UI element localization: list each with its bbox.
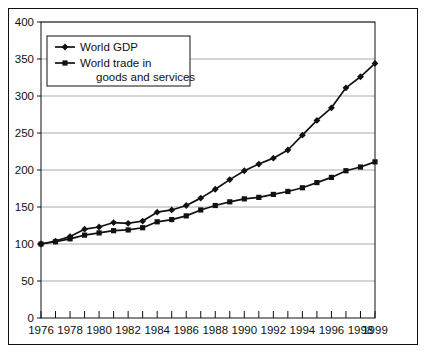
x-tick-label: 1999 — [362, 324, 388, 336]
data-point — [329, 175, 334, 180]
line-chart: 400350300250200150100500 197619781980198… — [0, 0, 426, 353]
data-point — [125, 220, 132, 227]
x-tick-label: 1988 — [202, 324, 228, 336]
data-point — [343, 168, 348, 173]
y-tick-label: 50 — [21, 275, 34, 287]
data-point — [140, 225, 145, 230]
y-tick-label: 100 — [15, 238, 34, 250]
series-line — [41, 63, 375, 244]
legend-label: goods and services — [96, 71, 195, 83]
data-point — [255, 161, 262, 168]
data-point — [183, 202, 190, 209]
data-point — [38, 241, 43, 246]
y-axis-tick-labels: 400350300250200150100500 — [15, 16, 41, 324]
data-point — [314, 180, 319, 185]
x-tick-label: 1976 — [28, 324, 54, 336]
series-world-gdp — [38, 60, 379, 247]
x-tick-label: 1994 — [290, 324, 316, 336]
y-tick-label: 250 — [15, 127, 34, 139]
data-point — [96, 224, 103, 231]
y-tick-label: 0 — [28, 312, 34, 324]
x-tick-label: 1978 — [57, 324, 83, 336]
data-point — [270, 155, 277, 162]
data-point — [67, 236, 72, 241]
x-tick-label: 1982 — [115, 324, 141, 336]
data-point — [358, 164, 363, 169]
series-world-trade-in-goods-and-services — [38, 159, 377, 246]
data-point — [96, 230, 101, 235]
y-tick-label: 350 — [15, 53, 34, 65]
data-point — [242, 196, 247, 201]
chart-legend: World GDPWorld trade ingoods and service… — [47, 36, 195, 86]
x-tick-label: 1996 — [319, 324, 345, 336]
x-tick-label: 1992 — [261, 324, 287, 336]
data-point — [126, 227, 131, 232]
y-tick-label: 400 — [15, 16, 34, 28]
data-point — [82, 233, 87, 238]
data-point — [372, 159, 377, 164]
x-tick-label: 1980 — [86, 324, 112, 336]
data-point — [168, 207, 175, 214]
data-point — [81, 226, 88, 233]
data-point — [285, 189, 290, 194]
data-point — [110, 219, 117, 226]
data-point — [271, 192, 276, 197]
data-point — [198, 207, 203, 212]
legend-label: World trade in — [80, 57, 151, 69]
data-point — [300, 185, 305, 190]
data-point — [213, 203, 218, 208]
y-tick-label: 200 — [15, 164, 34, 176]
data-point — [184, 213, 189, 218]
data-point — [53, 239, 58, 244]
series-line — [41, 162, 375, 244]
x-tick-label: 1990 — [232, 324, 258, 336]
x-axis-tick-labels: 1976197819801982198419861988199019921994… — [28, 324, 388, 336]
data-point — [111, 228, 116, 233]
x-axis-ticks — [41, 311, 375, 318]
x-tick-label: 1984 — [144, 324, 170, 336]
data-point — [62, 60, 67, 65]
data-point — [256, 195, 261, 200]
data-point — [227, 199, 232, 204]
data-series-group — [38, 60, 379, 247]
legend-label: World GDP — [80, 41, 138, 53]
y-tick-label: 150 — [15, 201, 34, 213]
data-point — [155, 219, 160, 224]
data-point — [169, 217, 174, 222]
y-tick-label: 300 — [15, 90, 34, 102]
chart-figure: 400350300250200150100500 197619781980198… — [0, 0, 426, 353]
x-tick-label: 1986 — [173, 324, 199, 336]
